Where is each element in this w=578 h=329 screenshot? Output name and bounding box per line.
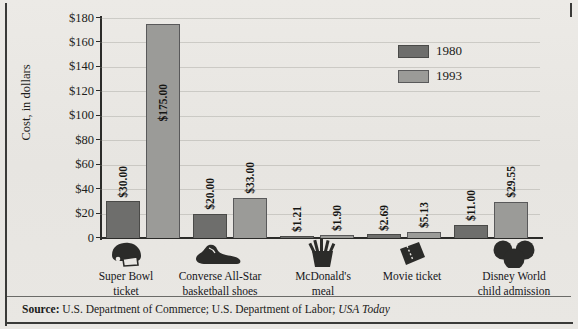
bar-value-label: $1.90 [331,205,343,231]
basketball-shoe-icon [163,240,277,268]
bar-value-label: $175.00 [157,84,169,121]
bar-value-label: $33.00 [244,162,256,194]
x-category-label-line1: Movie ticket [364,270,460,283]
bar-group: $29.55 [494,18,528,238]
y-axis-labels: $180 $160 $140 $120 $100 $80 $60 $40 $20… [34,0,94,260]
frame-bottom-border [5,322,573,324]
source-note: Source: U.S. Department of Commerce; U.S… [22,303,390,315]
legend: 1980 1993 [398,43,462,93]
x-category-super-bowl: Super Bowl ticket [76,240,176,297]
y-tick-label: $160 [38,36,94,49]
y-axis-title: Cost, in dollars [19,43,34,163]
bar-value-label: $11.00 [465,190,477,221]
y-tick-label: $40 [38,183,94,196]
frame-right-tick [570,3,572,17]
movie-ticket-icon [364,240,460,268]
bar-1993 [407,232,441,238]
bar-1980 [367,234,401,238]
x-category-disney-world: Disney World child admission [455,240,573,297]
french-fries-icon [275,240,371,268]
bar-1980 [454,225,488,238]
x-category-movie-ticket: Movie ticket [364,240,460,285]
football-helmet-icon [76,240,176,268]
x-category-label-line1: McDonald's [275,270,371,283]
frame-left-border [5,3,7,326]
bar-value-label: $29.55 [505,166,517,198]
bar-group: $33.00 [233,18,267,238]
x-category-label-line1: Converse All-Star [163,270,277,283]
x-category-mcdonalds: McDonald's meal [275,240,371,297]
bar-value-label: $20.00 [204,178,216,210]
bar-1980 [193,214,227,238]
legend-swatch-icon [398,45,429,58]
bar-group: $2.69 [367,18,401,238]
legend-item-1993: 1993 [398,68,462,84]
bar-group: $30.00 [106,18,140,238]
x-category-label-line1: Super Bowl [76,270,176,283]
legend-item-1980: 1980 [398,43,462,59]
bar-value-label: $1.21 [291,206,303,232]
plot-area: $30.00 $175.00 $20.00 $33.00 $1.21 $1.90… [100,18,540,238]
source-text: U.S. Department of Commerce; U.S. Depart… [62,303,335,315]
y-tick-label: $140 [38,60,94,73]
x-category-label-line1: Disney World [455,270,573,283]
bar-group: $20.00 [193,18,227,238]
bar-group: $175.00 [146,18,180,238]
bar-value-label: $2.69 [378,205,390,231]
source-publication: USA Today [338,303,389,315]
bar-group: $1.90 [320,18,354,238]
y-tick-label: $100 [38,109,94,122]
bar-value-label: $30.00 [117,166,129,198]
source-divider [7,296,571,297]
source-label: Source: [22,303,59,315]
y-tick-label: $180 [38,12,94,25]
chart-figure: $180 $160 $140 $120 $100 $80 $60 $40 $20… [0,0,578,329]
legend-swatch-icon [398,70,429,83]
mickey-mouse-icon [455,240,573,268]
x-category-converse: Converse All-Star basketball shoes [163,240,277,297]
y-tick-label: $80 [38,134,94,147]
y-tick-label: $120 [38,85,94,98]
bar-1993 [146,24,180,238]
bar-1993 [233,198,267,238]
bar-value-label: $5.13 [418,202,430,228]
bar-1993 [494,202,528,238]
bar-group: $1.21 [280,18,314,238]
y-tick-label: $20 [38,207,94,220]
bar-1980 [106,201,140,238]
y-tick-label: $60 [38,158,94,171]
legend-label: 1980 [436,43,462,59]
legend-label: 1993 [436,68,462,84]
